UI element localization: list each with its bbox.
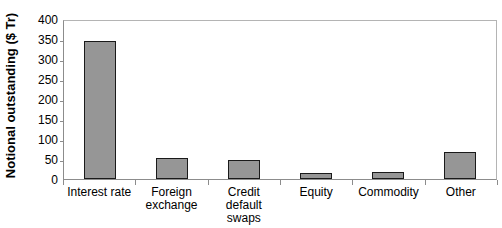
bar-slot: [64, 21, 136, 179]
x-axis-label: Foreign exchange: [135, 186, 207, 228]
x-axis-category-labels: Interest rateForeign exchangeCredit defa…: [63, 186, 497, 228]
y-tick-label: 350: [38, 33, 58, 47]
y-tick-label: 250: [38, 73, 58, 87]
x-axis-label: Equity: [280, 186, 352, 228]
x-tick-mark: [63, 180, 64, 185]
bar: [444, 152, 476, 179]
x-tick-mark: [135, 180, 136, 185]
y-axis-title: Notional outstanding ($ Tr): [0, 0, 22, 190]
y-tick-label: 100: [38, 133, 58, 147]
plot-area: [63, 20, 497, 180]
x-axis-label: Credit default swaps: [208, 186, 280, 228]
y-tick-label: 200: [38, 93, 58, 107]
bar: [372, 172, 404, 179]
y-tick-mark: [60, 121, 64, 122]
x-tick-mark: [497, 180, 498, 185]
y-tick-mark: [60, 61, 64, 62]
y-tick-mark: [60, 141, 64, 142]
x-tick-mark: [208, 180, 209, 185]
y-tick-mark: [60, 101, 64, 102]
bars-layer: [64, 21, 496, 179]
bar-slot: [352, 21, 424, 179]
x-axis-label: Commodity: [352, 186, 424, 228]
bar: [300, 173, 332, 179]
y-tick-label: 0: [51, 173, 58, 187]
y-axis-title-text: Notional outstanding ($ Tr): [4, 12, 19, 177]
bar-slot: [208, 21, 280, 179]
x-tick-mark: [280, 180, 281, 185]
bar-slot: [136, 21, 208, 179]
x-axis-label: Interest rate: [63, 186, 135, 228]
y-tick-label: 50: [45, 153, 58, 167]
bar-slot: [424, 21, 496, 179]
y-tick-mark: [60, 81, 64, 82]
bar: [228, 160, 260, 179]
y-tick-label: 400: [38, 13, 58, 27]
x-axis-label: Other: [425, 186, 497, 228]
x-tick-mark: [352, 180, 353, 185]
bar: [84, 41, 116, 179]
y-tick-label: 150: [38, 113, 58, 127]
bar: [156, 158, 188, 179]
y-tick-mark: [60, 41, 64, 42]
y-tick-label: 300: [38, 53, 58, 67]
x-tick-mark: [425, 180, 426, 185]
y-axis-tick-labels: 400350300250200150100500: [22, 0, 62, 228]
y-tick-mark: [60, 161, 64, 162]
bar-slot: [280, 21, 352, 179]
bar-chart: Notional outstanding ($ Tr) 400350300250…: [0, 0, 502, 228]
